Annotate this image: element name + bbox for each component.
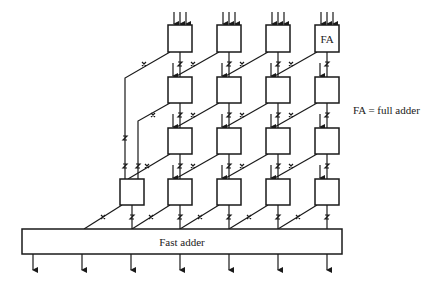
fa-cell xyxy=(315,128,339,154)
side-input-arrows xyxy=(173,63,320,178)
fa-cell xyxy=(120,179,144,205)
adder-array-diagram: FA FA = full adder Fast adder xyxy=(0,0,433,290)
fa-cell xyxy=(217,25,241,52)
fa-label: FA xyxy=(320,33,333,45)
fa-cell xyxy=(217,179,241,205)
fa-cell xyxy=(168,179,192,205)
fa-cell xyxy=(266,128,290,154)
fa-cell xyxy=(168,25,192,52)
fa-cell xyxy=(266,77,290,103)
legend-text: FA = full adder xyxy=(353,104,420,116)
fa-cell xyxy=(217,128,241,154)
fa-cell xyxy=(266,179,290,205)
fa-cell xyxy=(217,77,241,103)
fa-cell xyxy=(315,179,339,205)
fast-adder-label: Fast adder xyxy=(159,236,205,248)
output-arrows xyxy=(33,254,327,270)
top-input-arrows xyxy=(174,12,333,24)
fa-cell xyxy=(315,77,339,103)
fa-cell xyxy=(266,25,290,52)
fa-cell xyxy=(168,128,192,154)
fa-cell xyxy=(168,77,192,103)
